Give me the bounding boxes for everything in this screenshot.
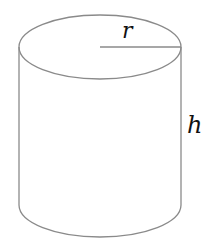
radius-label: r <box>122 18 134 43</box>
cylinder-bottom-arc <box>19 205 181 237</box>
cylinder-diagram: r h <box>0 0 210 247</box>
height-label: h <box>187 111 202 139</box>
